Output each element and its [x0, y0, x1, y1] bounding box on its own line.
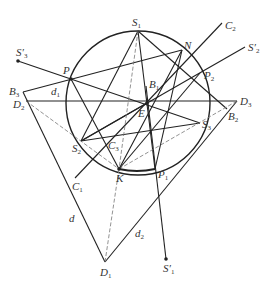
- label-p1: P1: [158, 169, 168, 182]
- dashed-line: [119, 31, 138, 169]
- label-d: d: [69, 213, 75, 224]
- point-k: [117, 167, 121, 171]
- label-s1p: S′1: [163, 263, 174, 276]
- arc-k-p1: [119, 169, 155, 171]
- label-c3: C3: [108, 140, 119, 153]
- label-n: N: [184, 40, 191, 51]
- label-e: E: [138, 108, 145, 119]
- label-d1: D1: [100, 267, 111, 280]
- label-s2p: S′2: [248, 42, 259, 55]
- label-b2: B2: [228, 111, 238, 124]
- label-d3: D3: [240, 96, 251, 109]
- label-s3: S3: [202, 119, 211, 132]
- label-c2: C2: [225, 20, 236, 33]
- dashed-line: [26, 101, 119, 169]
- point-e: [145, 101, 149, 105]
- label-c1: C1: [72, 181, 83, 194]
- label-p2: P2: [204, 70, 214, 83]
- circle: [66, 31, 210, 175]
- label-b1: B1: [149, 79, 159, 92]
- label-d1: d1: [51, 86, 60, 99]
- label-s2: S2: [72, 143, 81, 156]
- label-s3p: S′3: [16, 47, 27, 60]
- label-s1: S1: [132, 17, 141, 30]
- label-d2: d2: [135, 228, 144, 241]
- label-k: K: [116, 173, 123, 184]
- label-d2: D2: [13, 99, 24, 112]
- diagram-figure: [0, 0, 273, 299]
- geometry-diagram: S1C2NS′3S′2PP2B1B3d1D2D3EB2S3C3S2KP1C1dd…: [0, 0, 273, 299]
- label-p: P: [63, 65, 70, 76]
- point-s1p: [164, 257, 168, 261]
- point-p: [69, 77, 73, 81]
